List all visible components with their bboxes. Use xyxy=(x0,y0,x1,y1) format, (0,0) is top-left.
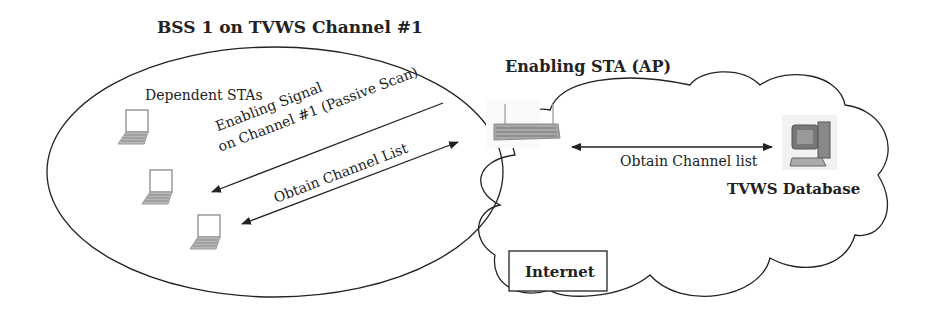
ap-label: Enabling STA (AP) xyxy=(505,57,671,76)
bss-ellipse xyxy=(47,47,503,297)
laptop-icon xyxy=(190,215,220,249)
obtain-list-label-left: Obtain Channel List xyxy=(271,140,410,206)
laptop-icon xyxy=(118,110,148,144)
database-computer-icon xyxy=(782,115,837,170)
bss-title: BSS 1 on TVWS Channel #1 xyxy=(157,17,423,37)
tvws-database-label: TVWS Database xyxy=(727,180,860,198)
laptop-icon xyxy=(142,170,172,204)
obtain-list-label-right: Obtain Channel list xyxy=(620,153,758,169)
diagram: BSS 1 on TVWS Channel #1 Dependent STAs … xyxy=(0,0,933,334)
obtain-list-arrow-left xyxy=(242,142,458,224)
dependent-stas-label: Dependent STAs xyxy=(145,87,263,103)
access-point-icon xyxy=(486,100,560,148)
internet-label: Internet xyxy=(525,263,595,281)
